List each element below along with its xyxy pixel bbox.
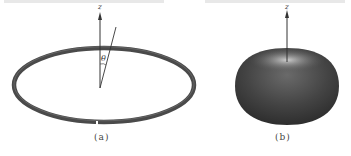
angle-arc [100,64,106,65]
figure-a-caption: (a) [94,132,109,142]
z-axis-arrow-icon-b [285,10,289,18]
z-axis-label: z [98,3,102,11]
z-axis-arrow-icon [98,12,102,20]
theta-label: θ [101,54,106,63]
figure-a-loop-antenna: z θ (a) [0,0,210,156]
figure-b-radiation-pattern: z (b) [210,0,351,156]
z-axis-label-b: z [285,3,289,11]
figure-b-caption: (b) [275,132,291,142]
